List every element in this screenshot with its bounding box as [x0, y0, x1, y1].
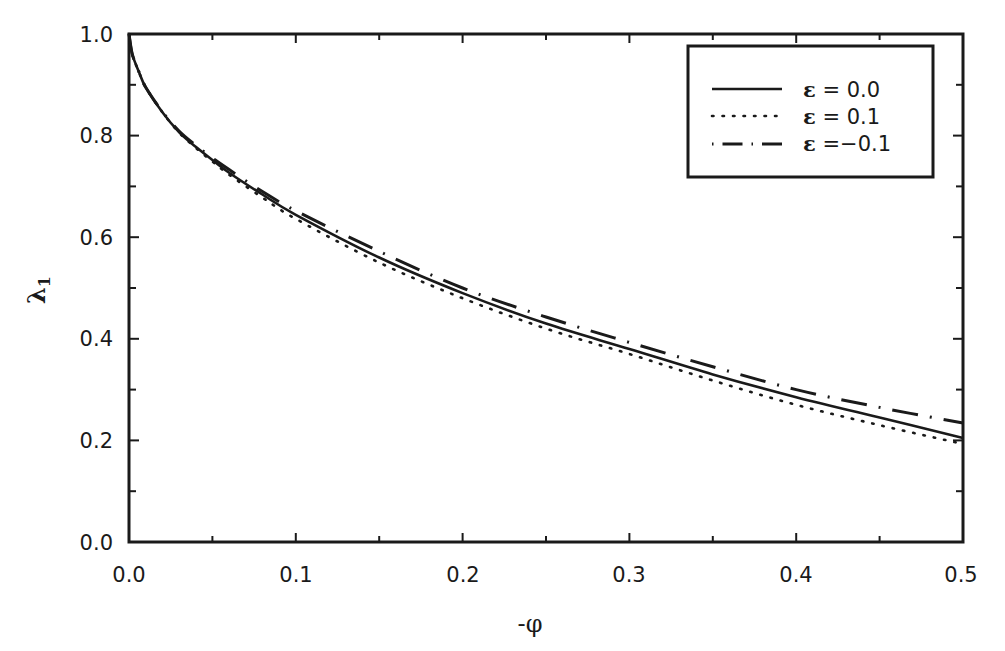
legend-label-eps-0.1: ε = 0.1 [803, 104, 880, 129]
legend-label-eps-neg0.1: ε =−0.1 [803, 131, 891, 156]
x-axis-label: -φ [518, 610, 543, 638]
y-tick-label: 1.0 [80, 23, 113, 47]
y-tick-label: 0.0 [80, 531, 113, 555]
y-tick-label: 0.4 [80, 327, 113, 351]
line-chart: 0.0 0.1 0.2 0.3 0.4 0.5 0.0 0.2 0.4 0.6 … [0, 0, 1005, 651]
x-tick-label: 0.2 [446, 563, 479, 587]
y-axis-label-subscript: 1 [35, 276, 54, 287]
y-tick-label: 0.8 [80, 124, 113, 148]
legend-label-eps-0.0: ε = 0.0 [803, 77, 880, 102]
x-tick-label: 0.0 [112, 563, 145, 587]
x-tick-label: 0.4 [779, 563, 812, 587]
x-tick-label: 0.1 [279, 563, 312, 587]
x-tick-label: 0.5 [944, 563, 977, 587]
y-axis-tick-labels: 0.0 0.2 0.4 0.6 0.8 1.0 [80, 23, 113, 555]
x-axis-tick-labels: 0.0 0.1 0.2 0.3 0.4 0.5 [112, 563, 977, 587]
legend: ε = 0.0 ε = 0.1 ε =−0.1 [688, 46, 933, 177]
x-tick-label: 0.3 [612, 563, 645, 587]
y-tick-label: 0.6 [80, 226, 113, 250]
y-tick-label: 0.2 [80, 429, 113, 453]
svg-text:λ1: λ1 [22, 276, 54, 304]
y-axis-label: λ1 [22, 276, 54, 304]
y-axis-label-main: λ [22, 287, 51, 304]
